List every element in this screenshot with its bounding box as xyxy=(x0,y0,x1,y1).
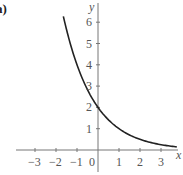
y-tick-label: 6 xyxy=(86,16,92,28)
x-tick-label: −1 xyxy=(70,156,83,168)
x-tick-label: 1 xyxy=(116,156,122,168)
function-curve xyxy=(63,16,176,147)
x-axis-label: x xyxy=(176,149,181,161)
y-tick-label: 4 xyxy=(86,59,92,71)
y-axis-label: y xyxy=(89,1,94,13)
y-tick-label: 2 xyxy=(86,101,92,113)
y-tick-label: 5 xyxy=(86,38,92,50)
x-tick-label: 3 xyxy=(158,156,164,168)
x-tick-label: −3 xyxy=(28,156,41,168)
x-tick-label: −2 xyxy=(49,156,62,168)
x-tick-label: 0 xyxy=(89,156,95,168)
x-tick-label: 2 xyxy=(137,156,143,168)
chart-container: a) −3−2−10123123456xy xyxy=(0,0,183,175)
y-tick-label: 1 xyxy=(86,123,92,135)
y-tick-label: 3 xyxy=(86,80,92,92)
